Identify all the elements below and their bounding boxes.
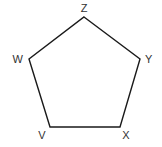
pentagon-shape <box>29 17 140 127</box>
vertex-label-x: X <box>122 129 130 141</box>
vertex-label-z: Z <box>81 2 88 14</box>
vertex-label-w: W <box>13 53 24 65</box>
vertex-label-y: Y <box>145 53 153 65</box>
vertex-label-v: V <box>38 129 46 141</box>
pentagon-diagram: Z Y X V W <box>0 0 162 147</box>
